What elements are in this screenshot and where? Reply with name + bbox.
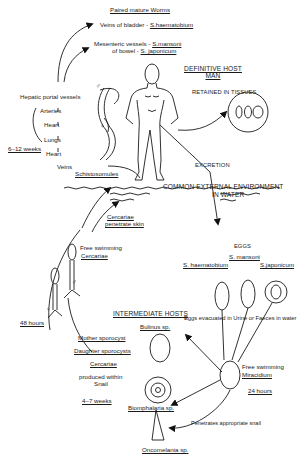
snail-cercariae-label: Cercariae bbox=[90, 360, 117, 367]
produced-within-line2: Snail bbox=[94, 380, 108, 387]
daughter-sporocysts-label: Daughter sporocysts bbox=[74, 347, 131, 354]
bowel-label: of bowel - S. japonicum bbox=[112, 47, 176, 54]
cercariae-penetrate-line2: penetrate skin bbox=[105, 220, 144, 227]
snail-bulinus bbox=[150, 334, 170, 362]
intermediate-hosts-heading: INTERMEDIATE HOSTS bbox=[113, 310, 188, 317]
environment-line1: COMMON EXTERNAL ENVIRONMENT bbox=[163, 183, 283, 190]
male-symbol: ♂ bbox=[96, 82, 101, 89]
snail-oncomelania bbox=[152, 410, 164, 440]
route-lungs: Lungs bbox=[44, 136, 61, 143]
man-figure bbox=[126, 64, 178, 180]
egg-haematobium bbox=[215, 282, 229, 310]
miracidium-line1: Free swimming bbox=[242, 363, 284, 370]
egg-species-haematobium: S. haematobium bbox=[183, 261, 228, 268]
route-veins: Veins bbox=[57, 163, 72, 170]
definitive-host-line2: MAN bbox=[178, 72, 248, 79]
egg-japonicum bbox=[265, 281, 287, 303]
snail-biomphalaria-label: Biomphalaria sp. bbox=[128, 404, 174, 411]
egg-mansoni bbox=[241, 280, 255, 308]
female-symbol: ♀ bbox=[100, 122, 105, 129]
penetrates-label: Penetrates appropriate snail bbox=[191, 420, 261, 427]
snail-stage-duration: 4–7 weeks bbox=[82, 397, 112, 404]
excretion-label: EXCRETION bbox=[195, 162, 230, 169]
miracidium-drawing bbox=[220, 361, 240, 389]
route-hepatic: Hepatic portal vessels bbox=[20, 93, 81, 100]
cercariae-penetrate-line1: Cercariae bbox=[107, 213, 134, 220]
free-swimming-cercariae-line1: Free swimming bbox=[80, 244, 122, 251]
bladder-label: Veins of bladder - S.haematobium bbox=[100, 21, 193, 28]
title: Paired mature Worms bbox=[110, 6, 170, 13]
cercaria-female-symbol: ♀ bbox=[46, 305, 51, 312]
eggs-evacuated-label: Eggs evacuated in Urine or Faeces in wat… bbox=[184, 315, 296, 322]
produced-within-line1: produced within bbox=[79, 373, 122, 380]
miracidium-line2: Miracidium bbox=[242, 371, 272, 378]
cercariae-duration: 48 hours bbox=[20, 319, 44, 326]
egg-species-mansoni: S. mansoni bbox=[229, 253, 260, 260]
cercaria-male-symbol: ♂ bbox=[72, 278, 77, 285]
snail-bulinus-label: Bulinus sp. bbox=[140, 323, 170, 330]
route-heart-1: Heart bbox=[44, 121, 59, 128]
migration-duration: 6–12 weeks bbox=[8, 145, 41, 152]
arrow-to-bladder bbox=[58, 24, 92, 82]
arrow-to-mesenteric bbox=[64, 48, 88, 82]
definitive-host-line1: DEFINITIVE HOST bbox=[178, 65, 248, 72]
schistosomules-label: Schistosomules bbox=[75, 170, 118, 177]
free-swimming-cercariae-line2: Cercariae bbox=[81, 252, 108, 259]
mother-sporocyst-label: Mother sporocyst bbox=[78, 334, 125, 341]
route-heart-2: Heart bbox=[46, 150, 61, 157]
route-arteries: Arteries bbox=[40, 107, 61, 114]
environment-line2: IN WATER bbox=[212, 191, 244, 198]
retained-eggs-circle bbox=[228, 92, 268, 132]
miracidium-duration: 24 hours bbox=[248, 387, 272, 394]
snail-biomphalaria bbox=[145, 377, 171, 403]
eggs-heading: EGGS bbox=[234, 243, 251, 250]
egg-species-japonicum: S.japonicum bbox=[260, 261, 294, 268]
snail-oncomelania-label: Oncomelania sp. bbox=[142, 446, 188, 453]
mesenteric-label: Mesenteric vessels - S.mansoni bbox=[94, 40, 181, 47]
retained-label: RETAINED IN TISSUES bbox=[192, 89, 257, 96]
